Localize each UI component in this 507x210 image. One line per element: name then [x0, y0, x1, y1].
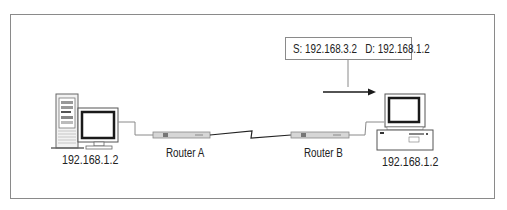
router-a-label: Router A [166, 146, 204, 160]
host-right-ip-label: 192.168.1.2 [382, 154, 438, 169]
router-a-icon [153, 132, 210, 138]
monitor-icon [78, 108, 118, 149]
destination-ip-label: D: 192.168.1.2 [365, 42, 430, 56]
packet-header-box: S: 192.168.3.2D: 192.168.1.2 [285, 37, 412, 60]
host-left-ip-label: 192.168.1.2 [62, 152, 118, 167]
arrow-right-icon [323, 89, 376, 96]
router-b-label: Router B [304, 146, 343, 160]
desktop-pc-icon [377, 94, 433, 150]
router-b-icon [291, 132, 349, 138]
ethernet-link-left [118, 122, 153, 135]
source-ip-label: S: 192.168.3.2 [293, 42, 357, 56]
network-diagram [0, 0, 507, 210]
wan-serial-link [210, 131, 291, 138]
